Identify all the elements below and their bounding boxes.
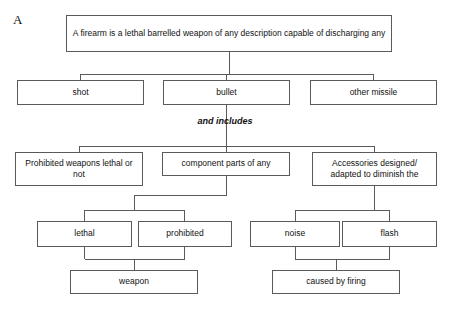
node-other-missile: other missile [310, 80, 437, 105]
figure-label: A [13, 12, 22, 28]
node-caused-by-firing: caused by firing [272, 270, 400, 294]
node-shot-label: shot [21, 87, 140, 99]
node-root: A firearm is a lethal barrelled weapon o… [66, 15, 392, 52]
node-other-missile-label: other missile [314, 87, 433, 99]
node-component-parts-label: component parts of any [166, 158, 286, 170]
node-noise: noise [250, 221, 340, 247]
node-component-parts: component parts of any [162, 152, 290, 176]
connector-phrase: and includes [0, 116, 450, 126]
node-shot: shot [17, 80, 144, 105]
node-accessories: Accessories designed/ adapted to diminis… [312, 152, 437, 186]
node-prohibited-weapons-label: Prohibited weapons lethal or not [19, 158, 139, 181]
node-root-label: A firearm is a lethal barrelled weapon o… [70, 28, 388, 40]
node-weapon: weapon [70, 270, 198, 294]
node-lethal-label: lethal [41, 228, 128, 240]
node-weapon-label: weapon [74, 276, 194, 288]
node-flash-label: flash [346, 228, 433, 240]
node-accessories-label: Accessories designed/ adapted to diminis… [316, 158, 433, 181]
node-noise-label: noise [254, 228, 336, 240]
node-prohibited-label: prohibited [142, 228, 228, 240]
node-lethal: lethal [37, 221, 132, 247]
node-caused-by-firing-label: caused by firing [276, 276, 396, 288]
node-prohibited: prohibited [138, 221, 232, 247]
node-bullet-label: bullet [167, 87, 286, 99]
node-flash: flash [342, 221, 437, 247]
node-prohibited-weapons: Prohibited weapons lethal or not [15, 152, 143, 186]
node-bullet: bullet [163, 80, 290, 105]
flowchart-diagram: A A firearm is a lethal barrelled weapon… [0, 0, 450, 309]
